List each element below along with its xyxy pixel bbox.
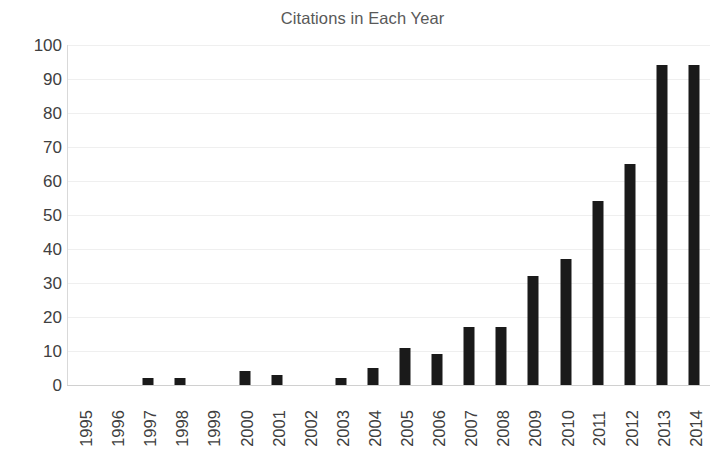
y-tick-label: 50 bbox=[4, 207, 62, 224]
x-tick-label-text: 2001 bbox=[269, 410, 288, 447]
x-tick-label-text: 1998 bbox=[173, 410, 192, 447]
x-tick-label: 2003 bbox=[325, 393, 357, 438]
x-tick-label-text: 2004 bbox=[366, 410, 385, 447]
x-tick-label-text: 2003 bbox=[334, 410, 353, 447]
y-axis-tick-labels: 0102030405060708090100 bbox=[0, 0, 62, 458]
x-tick-label: 2013 bbox=[646, 393, 678, 438]
x-tick-label: 2007 bbox=[453, 393, 485, 438]
y-tick-label: 60 bbox=[4, 173, 62, 190]
x-tick-label-text: 2011 bbox=[590, 411, 609, 446]
x-tick-label-text: 1997 bbox=[141, 410, 160, 447]
x-tick-label-text: 1995 bbox=[77, 410, 96, 447]
x-tick-label: 2008 bbox=[485, 393, 517, 438]
y-tick-label: 40 bbox=[4, 241, 62, 258]
x-tick-label-text: 2002 bbox=[302, 410, 321, 447]
citations-bar-chart: Citations in Each Year 01020304050607080… bbox=[0, 0, 725, 458]
x-tick-label-text: 2013 bbox=[655, 410, 674, 447]
x-tick-label: 1999 bbox=[196, 393, 228, 438]
y-tick-label: 10 bbox=[4, 343, 62, 360]
y-tick-label: 70 bbox=[4, 139, 62, 156]
x-tick-label: 2012 bbox=[614, 393, 646, 438]
x-tick-label-text: 2005 bbox=[398, 410, 417, 447]
y-tick-label: 0 bbox=[4, 377, 62, 394]
x-tick-label-text: 2012 bbox=[623, 410, 642, 447]
x-tick-label-text: 1996 bbox=[109, 410, 128, 447]
x-tick-label-text: 2010 bbox=[558, 410, 577, 447]
x-tick-label: 2006 bbox=[421, 393, 453, 438]
y-tick-label: 80 bbox=[4, 105, 62, 122]
x-tick-label: 2004 bbox=[357, 393, 389, 438]
x-tick-label: 1997 bbox=[132, 393, 164, 438]
x-axis-tick-labels: 1995199619971998199920002001200220032004… bbox=[68, 0, 710, 458]
x-tick-label: 2014 bbox=[678, 393, 710, 438]
x-tick-label-text: 2000 bbox=[237, 410, 256, 447]
x-tick-label: 2011 bbox=[582, 393, 614, 438]
x-tick-label-text: 2006 bbox=[430, 410, 449, 447]
x-tick-label: 2005 bbox=[389, 393, 421, 438]
x-tick-label-text: 2008 bbox=[494, 410, 513, 447]
x-tick-label: 2002 bbox=[293, 393, 325, 438]
x-tick-label-text: 2009 bbox=[526, 410, 545, 447]
x-tick-label: 2010 bbox=[550, 393, 582, 438]
x-tick-label: 2009 bbox=[517, 393, 549, 438]
x-tick-label-text: 2014 bbox=[687, 410, 706, 447]
x-tick-label-text: 1999 bbox=[205, 410, 224, 447]
x-tick-label: 2000 bbox=[229, 393, 261, 438]
x-tick-label: 1998 bbox=[164, 393, 196, 438]
x-tick-label: 1995 bbox=[68, 393, 100, 438]
y-tick-label: 90 bbox=[4, 71, 62, 88]
x-tick-label: 1996 bbox=[100, 393, 132, 438]
y-tick-label: 100 bbox=[4, 37, 62, 54]
y-tick-label: 20 bbox=[4, 309, 62, 326]
x-tick-label: 2001 bbox=[261, 393, 293, 438]
y-tick-label: 30 bbox=[4, 275, 62, 292]
x-tick-label-text: 2007 bbox=[462, 410, 481, 447]
